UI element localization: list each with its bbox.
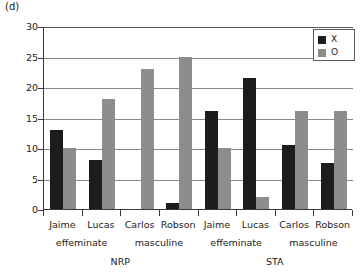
x-name-label-0: Jaime [43, 219, 82, 230]
legend-item-x: X [318, 33, 354, 46]
y-tick-label-30: 30 [14, 22, 38, 32]
x-name-label-3: Robson [159, 219, 198, 230]
bar-o-6 [295, 111, 308, 209]
x-name-label-6: Carlos [275, 219, 314, 230]
x-name-label-4: Jaime [198, 219, 237, 230]
bar-o-4 [218, 148, 231, 209]
x-tick-3 [159, 210, 160, 216]
y-tick-label-25: 25 [14, 53, 38, 63]
x-tick-0 [43, 210, 44, 216]
bar-o-0 [63, 148, 76, 209]
x-name-label-1: Lucas [82, 219, 121, 230]
x-tick-7 [313, 210, 314, 216]
plot-top-rule [44, 27, 353, 28]
x-name-label-2: Carlos [120, 219, 159, 230]
x-tick-1 [82, 210, 83, 216]
y-tick-label-20: 20 [14, 83, 38, 93]
x-tick-6 [275, 210, 276, 216]
x-style-label-1: masculine [120, 237, 197, 248]
bar-o-5 [256, 197, 269, 209]
x-name-label-5: Lucas [236, 219, 275, 230]
legend-item-o: O [318, 46, 354, 59]
plot-area [43, 27, 352, 210]
bar-x-6 [282, 145, 295, 209]
bar-o-2 [141, 69, 154, 209]
legend: X O [313, 29, 355, 61]
x-tick-2 [120, 210, 121, 216]
bar-x-4 [205, 111, 218, 209]
legend-label-o: O [331, 48, 338, 57]
bar-o-3 [179, 57, 192, 210]
legend-swatch-x [318, 36, 326, 44]
chart-figure: (d) 302520151050 JaimeLucasCarlosRobsonJ… [0, 0, 362, 277]
x-condition-label-nrp: NRP [43, 256, 198, 267]
y-tick-label-10: 10 [14, 144, 38, 154]
x-name-label-7: Robson [313, 219, 352, 230]
y-axis: 302520151050 [0, 0, 38, 277]
bar-x-5 [243, 78, 256, 209]
y-tick-label-0: 0 [14, 205, 38, 215]
x-tick-5 [236, 210, 237, 216]
x-tick-8 [352, 210, 353, 216]
gridline-20 [44, 88, 353, 89]
bar-o-7 [334, 111, 347, 209]
bar-o-1 [102, 99, 115, 209]
bar-x-0 [50, 130, 63, 209]
legend-label-x: X [331, 35, 337, 44]
bar-x-7 [321, 163, 334, 209]
x-condition-label-sta: STA [198, 256, 353, 267]
bar-x-3 [166, 203, 179, 209]
y-tick-label-5: 5 [14, 175, 38, 185]
bar-x-1 [89, 160, 102, 209]
x-tick-4 [198, 210, 199, 216]
x-style-label-0: effeminate [43, 237, 120, 248]
y-tick-label-15: 15 [14, 114, 38, 124]
x-style-label-2: effeminate [198, 237, 275, 248]
legend-swatch-o [318, 49, 326, 57]
gridline-25 [44, 58, 353, 59]
x-style-label-3: masculine [275, 237, 352, 248]
